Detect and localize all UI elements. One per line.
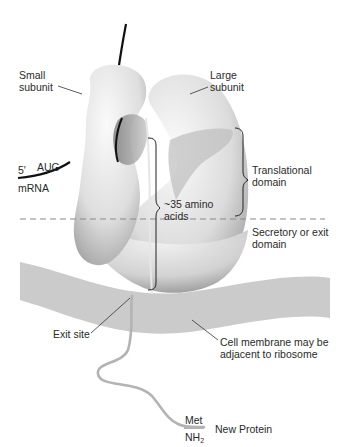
small-subunit-label: Small subunit xyxy=(19,69,53,93)
amino-acids-label-line2: acids xyxy=(164,210,213,222)
nh2-base: NH xyxy=(185,431,200,443)
exit-site-label: Exit site xyxy=(53,328,90,340)
secretory-domain-label: Secretory or exit domain xyxy=(252,226,328,250)
cell-membrane-line1: Cell membrane may be xyxy=(220,336,329,348)
secretory-domain-line2: domain xyxy=(252,238,328,250)
large-subunit-label: Large subunit xyxy=(210,69,244,93)
cell-membrane-label: Cell membrane may be adjacent to ribosom… xyxy=(220,336,329,360)
translational-domain-line2: domain xyxy=(252,176,312,188)
translational-domain-label: Translational domain xyxy=(252,164,312,188)
mrna-strand xyxy=(118,24,126,72)
small-subunit-label-line1: Small xyxy=(19,69,53,81)
new-protein-label: New Protein xyxy=(215,423,272,435)
small-subunit-leader xyxy=(58,86,82,94)
cell-membrane-line2: adjacent to ribosome xyxy=(220,348,329,360)
small-subunit-label-line2: subunit xyxy=(19,81,53,93)
mrna-label: mRNA xyxy=(18,182,49,194)
nh2-subscript: 2 xyxy=(200,437,204,444)
aug-codon-label: AUG xyxy=(37,161,60,173)
translational-domain-line1: Translational xyxy=(252,164,312,176)
large-subunit-label-line2: subunit xyxy=(210,81,244,93)
five-prime-label: 5′ xyxy=(18,164,26,176)
met-label: Met xyxy=(185,414,203,426)
trna-site xyxy=(113,114,147,165)
amino-acids-label: ~35 amino acids xyxy=(164,198,213,222)
nh2-label: NH2 xyxy=(185,431,204,447)
amino-acids-label-line1: ~35 amino xyxy=(164,198,213,210)
large-subunit-label-line1: Large xyxy=(210,69,244,81)
secretory-domain-line1: Secretory or exit xyxy=(252,226,328,238)
